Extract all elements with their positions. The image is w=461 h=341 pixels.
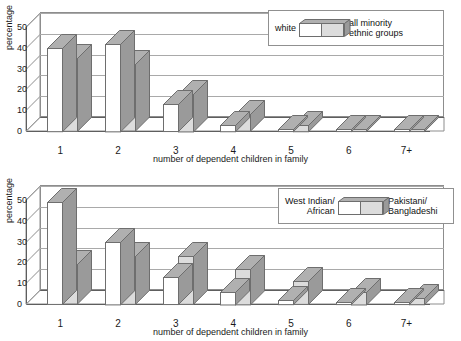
bar — [47, 202, 62, 304]
bar-front-face — [221, 125, 236, 131]
chart-page: percentage 01020304050 1234567+ number o… — [0, 0, 461, 341]
bar-front-face — [394, 129, 409, 131]
bar-front-face — [336, 302, 351, 304]
gridline-depth-connector — [26, 96, 41, 111]
bar-front-face — [394, 302, 409, 304]
legend-swatch — [299, 19, 345, 37]
bar — [220, 125, 235, 131]
bar-front-face — [163, 277, 178, 304]
y-tick-label: 50 — [17, 23, 20, 32]
gridline-depth-connector — [26, 269, 41, 284]
bar-front-face — [163, 104, 178, 131]
bar — [47, 48, 62, 131]
gridline-depth-connector — [26, 228, 41, 243]
legend-top: white all minority ethnic groups — [268, 10, 444, 46]
bar — [163, 104, 178, 131]
bar-front-face — [279, 129, 294, 131]
gridline-depth-connector — [26, 117, 41, 132]
bar — [105, 44, 120, 131]
y-tick-label: 30 — [17, 64, 20, 73]
gridline-depth-connector — [26, 55, 41, 70]
bar-front-face — [48, 48, 63, 131]
y-tick-label: 50 — [17, 196, 20, 205]
bar — [394, 129, 409, 131]
legend-bottom: West Indian/ African Pakistani/ Banglade… — [278, 188, 454, 224]
y-tick-label: 30 — [17, 237, 20, 246]
gridline-depth-connector — [26, 13, 41, 28]
bar — [394, 302, 409, 304]
bar — [336, 129, 351, 131]
bar-side-face — [63, 189, 77, 305]
gridline-depth-connector — [26, 207, 41, 222]
bar-side-face — [78, 45, 92, 132]
y-tick-label: 0 — [17, 300, 20, 309]
bar-front-face — [48, 203, 63, 305]
gridline-depth-connector — [26, 34, 41, 49]
chart-bottom: percentage 01020304050 1234567+ number o… — [0, 175, 461, 341]
bar-side-face — [135, 51, 149, 132]
y-tick-label: 20 — [17, 85, 20, 94]
bar-side-face — [120, 228, 134, 304]
gridline — [40, 55, 444, 56]
bar-side-face — [63, 34, 77, 131]
bar-front-face — [105, 242, 120, 304]
legend-swatch — [338, 197, 384, 215]
bar-front-face — [105, 44, 120, 131]
bar-side-face — [120, 30, 134, 131]
bar — [105, 242, 120, 304]
gridline — [40, 96, 444, 97]
bar — [278, 129, 293, 131]
x-axis-title: number of dependent children in family — [0, 327, 461, 337]
gridline — [40, 186, 444, 187]
gridline — [40, 248, 444, 249]
gridline-depth-connector — [26, 186, 41, 201]
legend-label-right: Pakistani/ Bangladeshi — [388, 196, 438, 216]
gridline-depth-connector — [26, 75, 41, 90]
gridline — [40, 75, 444, 76]
gridline — [40, 228, 444, 229]
y-tick-label: 40 — [17, 43, 20, 52]
y-tick-label: 10 — [17, 106, 20, 115]
gridline-depth-connector — [26, 248, 41, 263]
bar-front-face — [221, 292, 236, 304]
x-axis-title: number of dependent children in family — [0, 154, 461, 164]
chart-top: percentage 01020304050 1234567+ number o… — [0, 2, 461, 168]
legend-label-left: West Indian/ African — [285, 196, 335, 216]
y-tick-label: 40 — [17, 216, 20, 225]
bar-front-face — [279, 300, 294, 304]
bar — [278, 300, 293, 304]
y-tick-label: 0 — [17, 127, 20, 136]
bar — [220, 292, 235, 304]
y-axis-title: percentage — [4, 178, 14, 223]
bar-front-face — [336, 129, 351, 131]
legend-label-left: white — [275, 23, 296, 33]
y-axis-title: percentage — [4, 5, 14, 50]
y-tick-label: 20 — [17, 258, 20, 267]
bar — [163, 277, 178, 304]
bar — [336, 302, 351, 304]
gridline-depth-connector — [26, 290, 41, 305]
legend-label-right: all minority ethnic groups — [349, 18, 403, 38]
y-tick-label: 10 — [17, 279, 20, 288]
